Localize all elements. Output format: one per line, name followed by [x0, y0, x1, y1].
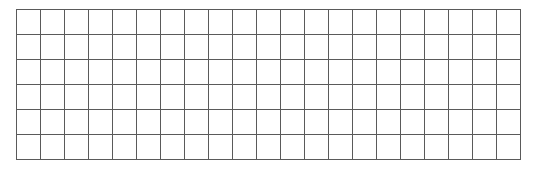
grid-cell [89, 110, 113, 135]
grid-cell [209, 110, 233, 135]
grid-cell [233, 110, 257, 135]
grid-cell [449, 110, 473, 135]
grid-cell [41, 135, 65, 160]
grid-cell [233, 10, 257, 35]
grid-cell [281, 60, 305, 85]
grid-cell [353, 35, 377, 60]
grid-cell [89, 85, 113, 110]
grid-cell [161, 85, 185, 110]
grid-cell [377, 135, 401, 160]
grid-cell [65, 60, 89, 85]
grid-cell [113, 85, 137, 110]
grid-cell [17, 35, 41, 60]
grid-cell [377, 10, 401, 35]
grid-cell [257, 85, 281, 110]
grid-cell [473, 10, 497, 35]
grid-cell [353, 135, 377, 160]
grid-cell [353, 85, 377, 110]
grid-cell [329, 110, 353, 135]
grid-cell [425, 85, 449, 110]
grid-cell [257, 110, 281, 135]
grid-cell [281, 85, 305, 110]
empty-grid-table [16, 9, 521, 160]
grid-cell [113, 110, 137, 135]
grid-cell [185, 85, 209, 110]
grid-cell [305, 35, 329, 60]
grid-cell [449, 35, 473, 60]
grid-cell [161, 60, 185, 85]
grid-cell [65, 35, 89, 60]
grid-cell [281, 10, 305, 35]
grid-cell [41, 110, 65, 135]
grid-cell [185, 35, 209, 60]
grid-cell [401, 10, 425, 35]
grid-cell [425, 60, 449, 85]
grid-cell [497, 60, 521, 85]
grid-cell [65, 85, 89, 110]
grid-cell [257, 60, 281, 85]
grid-cell [137, 60, 161, 85]
grid-cell [473, 60, 497, 85]
grid-cell [449, 135, 473, 160]
grid-cell [257, 10, 281, 35]
grid-cell [497, 110, 521, 135]
grid-cell [185, 135, 209, 160]
grid-cell [473, 35, 497, 60]
grid-cell [377, 60, 401, 85]
grid-cell [113, 60, 137, 85]
grid-cell [497, 85, 521, 110]
grid-cell [161, 110, 185, 135]
grid-cell [161, 10, 185, 35]
grid-cell [377, 85, 401, 110]
grid-cell [377, 110, 401, 135]
grid-cell [353, 10, 377, 35]
grid-cell [233, 35, 257, 60]
grid-cell [209, 35, 233, 60]
grid-cell [233, 135, 257, 160]
grid-cell [41, 60, 65, 85]
grid-cell [473, 110, 497, 135]
grid-cell [17, 10, 41, 35]
grid-cell [353, 110, 377, 135]
grid-cell [401, 135, 425, 160]
grid-cell [137, 135, 161, 160]
grid-cell [209, 10, 233, 35]
grid-cell [209, 60, 233, 85]
grid-cell [401, 110, 425, 135]
grid-cell [329, 85, 353, 110]
grid-cell [137, 85, 161, 110]
grid-cell [425, 135, 449, 160]
grid-cell [17, 110, 41, 135]
grid-cell [17, 135, 41, 160]
grid-cell [281, 110, 305, 135]
grid-cell [329, 10, 353, 35]
grid-cell [401, 85, 425, 110]
grid-cell [329, 135, 353, 160]
grid-cell [473, 135, 497, 160]
grid-cell [497, 10, 521, 35]
grid-cell [89, 35, 113, 60]
grid-cell [137, 10, 161, 35]
grid-cell [497, 135, 521, 160]
grid-cell [65, 110, 89, 135]
grid-cell [305, 110, 329, 135]
grid-cell [401, 60, 425, 85]
grid-cell [65, 135, 89, 160]
grid-cell [497, 35, 521, 60]
grid-cell [329, 60, 353, 85]
grid-cell [425, 10, 449, 35]
grid-cell [209, 135, 233, 160]
grid-cell [305, 60, 329, 85]
grid-cell [137, 110, 161, 135]
grid-cell [41, 85, 65, 110]
grid-cell [89, 60, 113, 85]
grid-cell [305, 135, 329, 160]
grid-cell [209, 85, 233, 110]
grid-cell [113, 135, 137, 160]
grid-cell [473, 85, 497, 110]
grid-cell [281, 35, 305, 60]
grid-cell [41, 10, 65, 35]
grid-cell [425, 35, 449, 60]
grid-cell [41, 35, 65, 60]
grid-cell [257, 135, 281, 160]
